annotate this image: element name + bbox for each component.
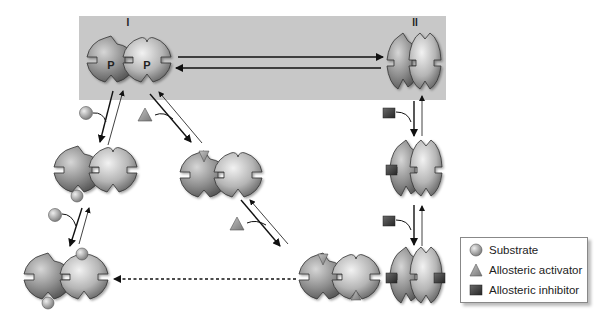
- activator-triangle-2: [230, 217, 244, 230]
- phospho-mark-left: P: [107, 59, 114, 71]
- bound-substrate-top: [76, 248, 88, 260]
- bound-inhibitor: [386, 165, 397, 175]
- legend-label-inhibitor: Allosteric inhibitor: [489, 284, 579, 296]
- enzyme-two-substrates: [24, 253, 108, 299]
- legend-label-substrate: Substrate: [489, 244, 538, 256]
- legend: Substrate Allosteric activator Allosteri…: [460, 237, 588, 303]
- activator-triangle: [138, 108, 152, 121]
- bound-inhibitor-left: [386, 273, 397, 283]
- bound-substrate: [71, 190, 83, 202]
- activator-triangle-icon: [469, 263, 483, 277]
- state-ii-label: II: [412, 17, 418, 28]
- state-i-label: I: [127, 17, 130, 28]
- enzyme-inhibitor-bound: [390, 140, 442, 196]
- activator-bind-arrow: [150, 94, 191, 142]
- substrate-ball: [80, 107, 93, 120]
- substrate-circle-icon: [469, 243, 483, 257]
- bound-substrate-bottom: [42, 297, 54, 309]
- inhibitor-curve: [396, 112, 411, 122]
- inhibitor-square-2: [383, 216, 395, 226]
- substrate-curve-2: [62, 214, 76, 226]
- substrate-curve: [93, 113, 106, 122]
- inhibitor-square-icon: [469, 283, 483, 297]
- substrate-ball-2: [49, 209, 62, 222]
- legend-item-inhibitor: Allosteric inhibitor: [469, 281, 579, 299]
- legend-item-substrate: Substrate: [469, 241, 538, 259]
- bound-inhibitor-right: [434, 273, 445, 283]
- legend-item-activator: Allosteric activator: [469, 261, 582, 279]
- phospho-mark-right: P: [143, 59, 150, 71]
- inhibitor-curve-2: [396, 220, 411, 230]
- activator-release-arrow-2: [250, 200, 288, 244]
- enzyme-two-activators: [299, 253, 380, 299]
- legend-label-activator: Allosteric activator: [489, 264, 582, 276]
- activator-bind-arrow-2: [241, 200, 280, 246]
- activator-curve-2: [247, 221, 266, 225]
- enzyme-substrate-bound: [54, 146, 137, 192]
- inhibitor-square: [383, 108, 395, 118]
- enzyme-activator-bound: [180, 151, 262, 197]
